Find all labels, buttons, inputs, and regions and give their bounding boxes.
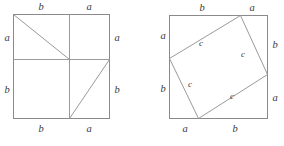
figure-canvas: b a b a a b a b b a a b a b <box>0 0 284 146</box>
left-lower-triangle-hypotenuse <box>70 60 110 119</box>
right-left-side-top-label: a <box>160 30 165 41</box>
inner-label-lower-right: c <box>230 91 234 101</box>
left-bottom-right-label: a <box>86 123 91 134</box>
pythagorean-proof-figure: b a b a a b a b b a a b a b <box>0 0 284 146</box>
inner-label-upper-right: c <box>241 49 245 59</box>
right-bottom-left-label: a <box>182 123 187 134</box>
left-upper-triangle-hypotenuse <box>14 15 70 60</box>
inner-label-lower-left: c <box>188 79 192 89</box>
left-bottom-left-label: b <box>38 123 43 134</box>
left-right-side-top-label: a <box>114 32 119 43</box>
left-outer-square <box>14 15 110 119</box>
left-top-left-label: b <box>38 1 43 12</box>
right-right-side-top-label: b <box>272 39 277 50</box>
left-square-panel: b a b a a b a b <box>4 1 119 134</box>
left-right-side-bottom-label: b <box>114 84 119 95</box>
left-side-top-label: a <box>4 32 9 43</box>
right-left-side-bottom-label: b <box>160 83 165 94</box>
right-bottom-right-label: b <box>232 123 237 134</box>
right-right-side-bottom-label: a <box>272 92 277 103</box>
right-top-right-label: a <box>249 2 254 13</box>
inner-label-upper-left: c <box>199 38 203 48</box>
right-inner-tilted-square <box>170 16 268 119</box>
right-top-left-label: b <box>199 2 204 13</box>
left-top-right-label: a <box>86 1 91 12</box>
left-side-bottom-label: b <box>4 84 9 95</box>
right-square-panel: b a a b a b b a c c c c <box>160 2 277 134</box>
right-outer-square <box>170 16 268 119</box>
